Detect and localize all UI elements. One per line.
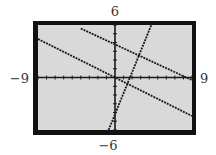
xmax-label: 9	[200, 71, 208, 86]
chart: 6 −6 −9 9	[0, 0, 216, 155]
xmin-label: −9	[10, 71, 29, 86]
ymax-label: 6	[111, 4, 119, 19]
ymin-label: −6	[98, 138, 117, 153]
